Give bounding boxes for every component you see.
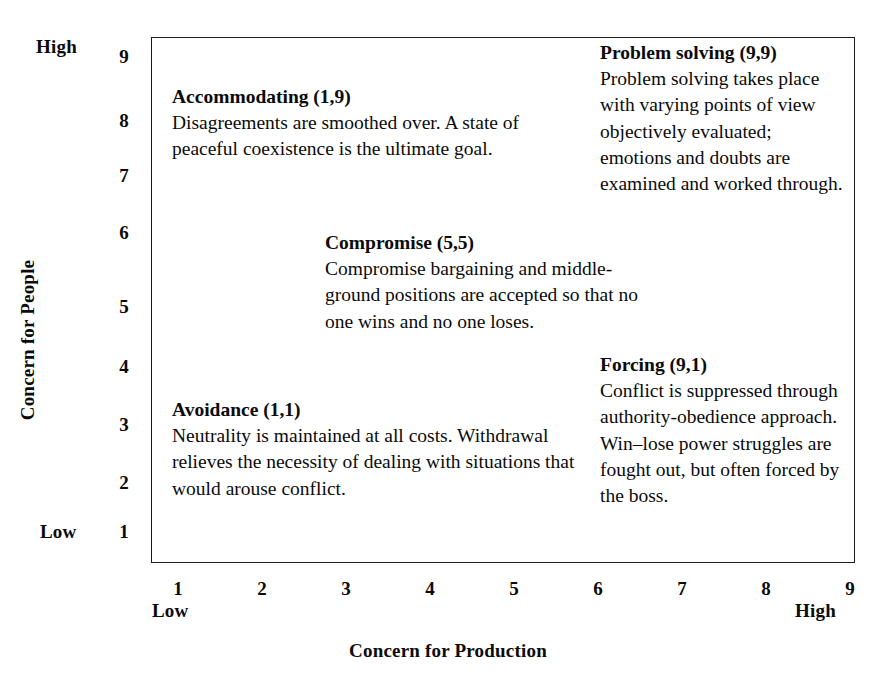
x-tick-9: 9	[830, 578, 870, 600]
y-tick-6: 6	[110, 222, 138, 244]
x-tick-4: 4	[410, 578, 450, 600]
y-tick-9: 9	[110, 46, 138, 68]
conflict-management-grid-figure: High Low Concern for People 9 8 7 6 5 4 …	[0, 0, 896, 685]
cell-compromise-title: Compromise (5,5)	[325, 230, 655, 256]
cell-forcing-body: Conflict is suppressed through authority…	[600, 378, 850, 509]
cell-compromise-body: Compromise bargaining and middle-ground …	[325, 256, 655, 335]
cell-avoidance: Avoidance (1,1) Neutrality is maintained…	[172, 397, 592, 502]
x-axis-title: Concern for Production	[0, 640, 896, 662]
y-tick-4: 4	[110, 356, 138, 378]
cell-problem-solving-title: Problem solving (9,9)	[600, 40, 846, 66]
cell-accommodating-title: Accommodating (1,9)	[172, 84, 532, 110]
x-tick-2: 2	[242, 578, 282, 600]
cell-forcing-title: Forcing (9,1)	[600, 352, 850, 378]
cell-avoidance-title: Avoidance (1,1)	[172, 397, 592, 423]
y-tick-7: 7	[110, 165, 138, 187]
y-axis-title: Concern for People	[17, 260, 39, 421]
cell-compromise: Compromise (5,5) Compromise bargaining a…	[325, 230, 655, 335]
x-tick-7: 7	[662, 578, 702, 600]
cell-problem-solving: Problem solving (9,9) Problem solving ta…	[600, 40, 846, 197]
y-tick-8: 8	[110, 110, 138, 132]
x-tick-5: 5	[494, 578, 534, 600]
y-tick-3: 3	[110, 414, 138, 436]
cell-accommodating-body: Disagreements are smoothed over. A state…	[172, 110, 532, 162]
y-axis-low-label: Low	[40, 521, 77, 543]
x-axis-low-label: Low	[152, 600, 189, 622]
y-tick-5: 5	[110, 296, 138, 318]
cell-forcing: Forcing (9,1) Conflict is suppressed thr…	[600, 352, 850, 509]
y-tick-2: 2	[110, 472, 138, 494]
cell-avoidance-body: Neutrality is maintained at all costs. W…	[172, 423, 592, 502]
cell-accommodating: Accommodating (1,9) Disagreements are sm…	[172, 84, 532, 163]
x-tick-8: 8	[746, 578, 786, 600]
y-axis-high-label: High	[36, 36, 77, 58]
y-tick-1: 1	[110, 521, 138, 543]
x-tick-6: 6	[578, 578, 618, 600]
cell-problem-solving-body: Problem solving takes place with varying…	[600, 66, 846, 197]
x-axis-high-label: High	[795, 600, 836, 622]
x-tick-3: 3	[326, 578, 366, 600]
x-tick-1: 1	[158, 578, 198, 600]
